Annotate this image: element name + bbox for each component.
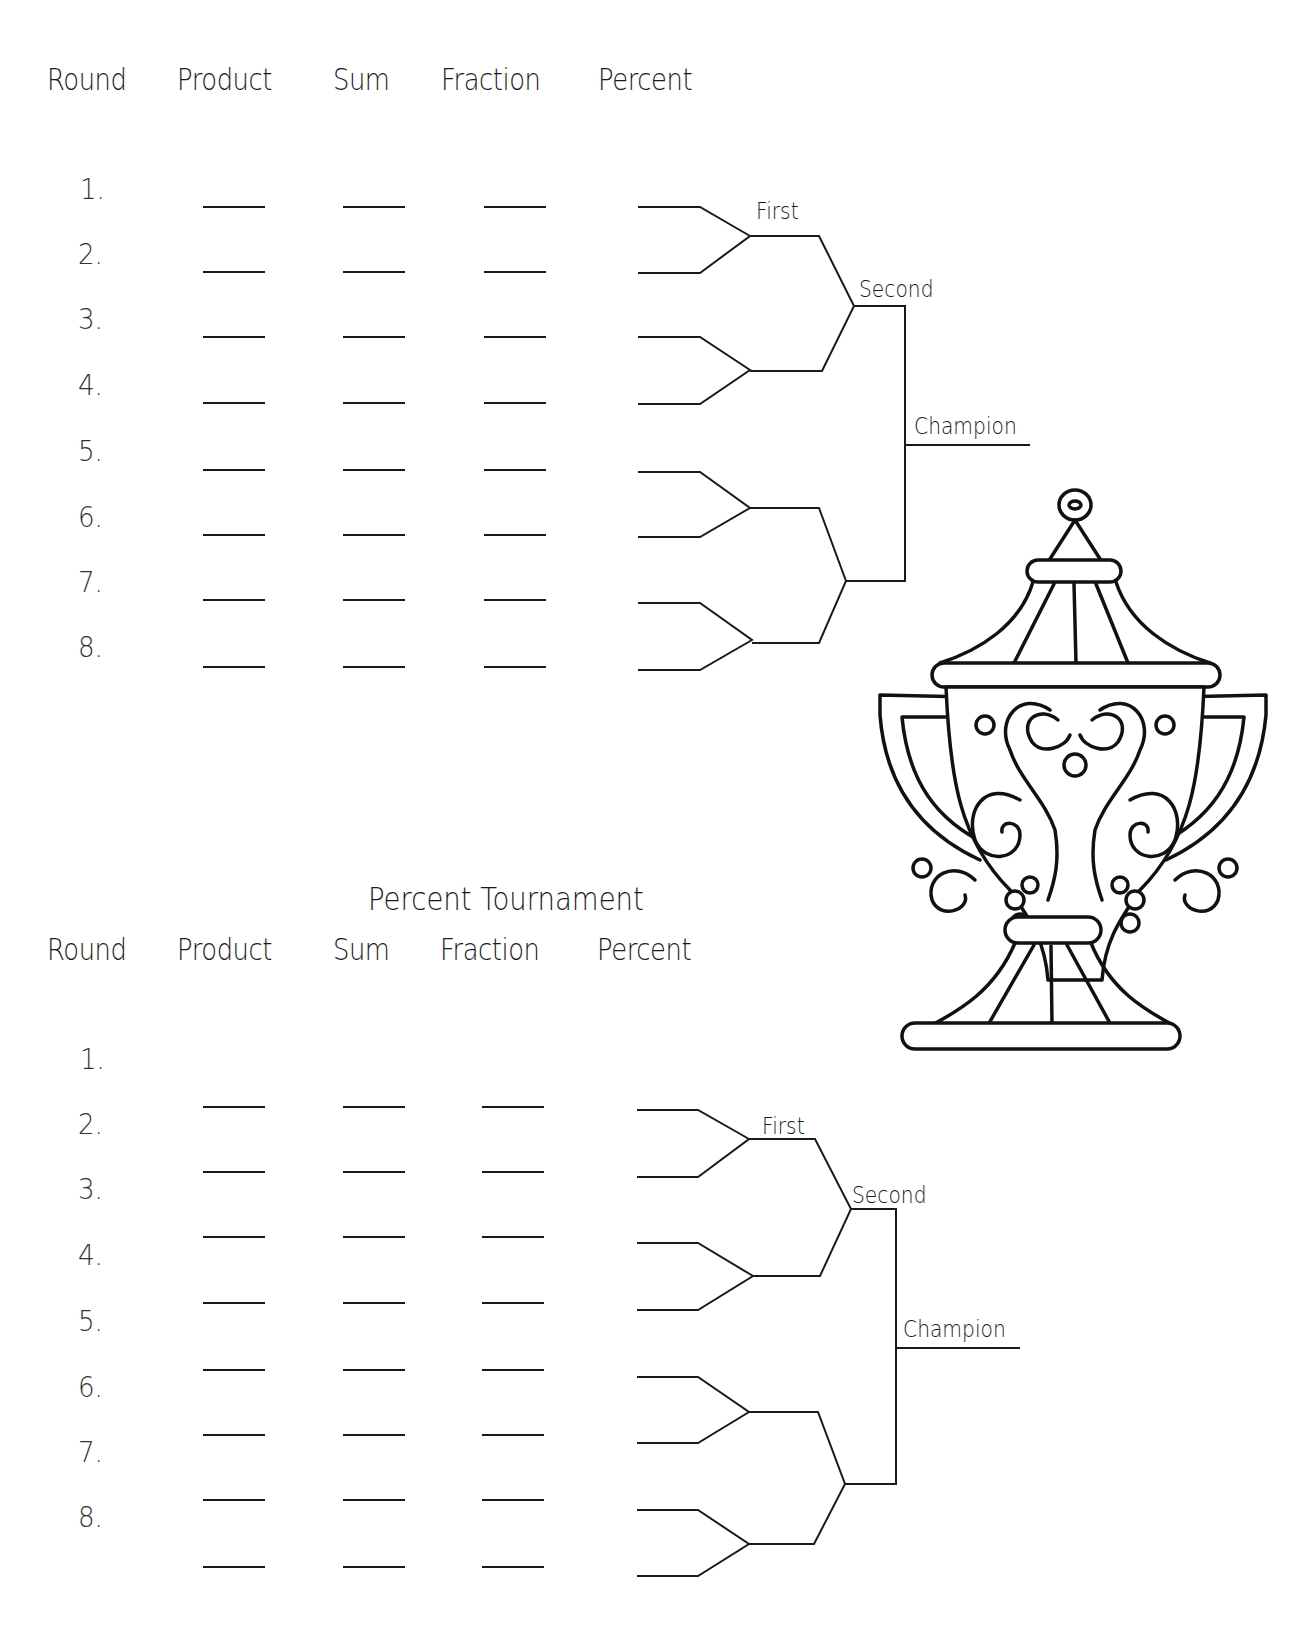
bracket-label-first: First: [762, 1113, 805, 1139]
bracket-label-champion: Champion: [903, 1316, 1006, 1342]
bracket-label-second: Second: [852, 1182, 926, 1208]
tournament-bracket-2: [0, 0, 1316, 1625]
